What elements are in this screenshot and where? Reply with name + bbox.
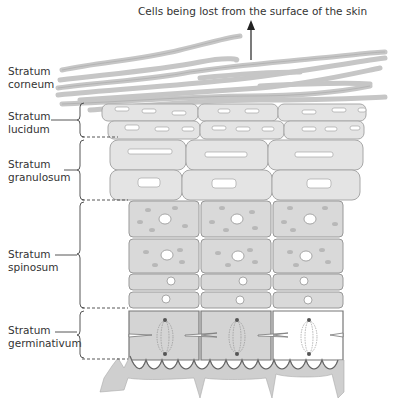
skin-layers-diagram (0, 0, 394, 398)
bracket-icon (51, 103, 84, 358)
up-arrow-icon (247, 20, 255, 60)
stratum-lucidum-cells (102, 104, 366, 139)
basement-membrane (100, 356, 344, 398)
stratum-corneum-fibers (58, 36, 385, 110)
